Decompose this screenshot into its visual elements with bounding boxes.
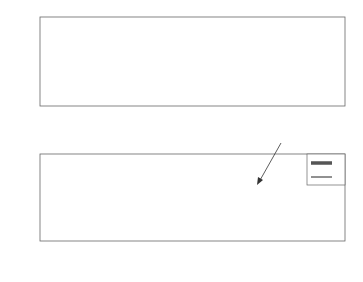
legend-box	[307, 154, 345, 185]
top-axes-box	[40, 17, 345, 106]
figure	[0, 0, 363, 282]
annotation-arrow-line	[259, 143, 281, 182]
top-plot	[40, 17, 345, 106]
arrow-head-icon	[257, 177, 263, 185]
legend	[307, 154, 345, 185]
bottom-axes-box	[40, 154, 345, 241]
bottom-plot	[40, 143, 345, 241]
